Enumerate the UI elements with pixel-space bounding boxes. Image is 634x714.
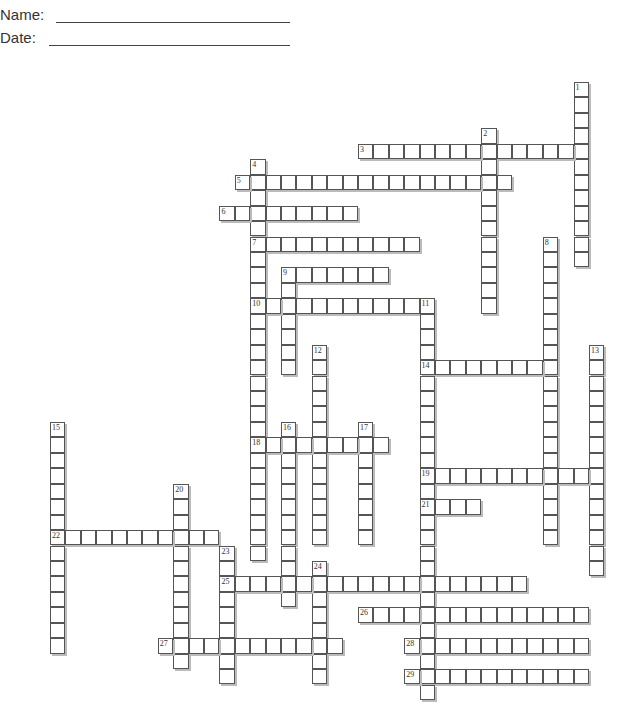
crossword-cell[interactable] — [574, 669, 589, 684]
crossword-cell[interactable] — [420, 422, 435, 437]
crossword-cell[interactable] — [435, 360, 450, 375]
crossword-cell[interactable] — [173, 623, 188, 638]
crossword-cell[interactable] — [50, 592, 65, 607]
crossword-cell[interactable] — [312, 267, 327, 282]
crossword-cell[interactable] — [296, 576, 311, 591]
crossword-cell[interactable] — [574, 252, 589, 267]
crossword-cell[interactable]: 9 — [281, 267, 296, 282]
crossword-cell[interactable] — [250, 206, 265, 221]
crossword-cell[interactable] — [420, 623, 435, 638]
crossword-cell[interactable] — [266, 237, 281, 252]
crossword-cell[interactable]: 27 — [158, 638, 173, 653]
crossword-cell[interactable] — [266, 175, 281, 190]
crossword-cell[interactable] — [574, 97, 589, 112]
crossword-cell[interactable] — [296, 437, 311, 452]
crossword-cell[interactable] — [589, 422, 604, 437]
crossword-cell[interactable] — [281, 515, 296, 530]
crossword-cell[interactable] — [250, 221, 265, 236]
crossword-cell[interactable] — [589, 391, 604, 406]
crossword-cell[interactable] — [358, 515, 373, 530]
crossword-cell[interactable] — [235, 638, 250, 653]
crossword-cell[interactable] — [481, 206, 496, 221]
crossword-cell[interactable] — [558, 638, 573, 653]
crossword-cell[interactable] — [404, 237, 419, 252]
crossword-cell[interactable] — [404, 298, 419, 313]
crossword-cell[interactable]: 13 — [589, 345, 604, 360]
crossword-cell[interactable] — [250, 376, 265, 391]
crossword-cell[interactable] — [389, 175, 404, 190]
crossword-cell[interactable] — [435, 669, 450, 684]
crossword-cell[interactable] — [543, 669, 558, 684]
crossword-cell[interactable] — [281, 206, 296, 221]
crossword-cell[interactable]: 10 — [250, 298, 265, 313]
crossword-cell[interactable] — [50, 468, 65, 483]
crossword-cell[interactable] — [281, 175, 296, 190]
crossword-cell[interactable]: 2 — [481, 128, 496, 143]
crossword-cell[interactable] — [420, 484, 435, 499]
crossword-cell[interactable] — [404, 175, 419, 190]
crossword-cell[interactable] — [250, 314, 265, 329]
crossword-cell[interactable] — [281, 638, 296, 653]
crossword-cell[interactable] — [589, 484, 604, 499]
crossword-cell[interactable] — [281, 298, 296, 313]
crossword-cell[interactable] — [527, 360, 542, 375]
crossword-cell[interactable] — [250, 638, 265, 653]
crossword-cell[interactable] — [281, 283, 296, 298]
crossword-cell[interactable] — [543, 144, 558, 159]
crossword-cell[interactable]: 7 — [250, 237, 265, 252]
crossword-cell[interactable] — [50, 561, 65, 576]
crossword-cell[interactable] — [312, 623, 327, 638]
crossword-cell[interactable] — [589, 376, 604, 391]
crossword-cell[interactable] — [50, 499, 65, 514]
crossword-cell[interactable] — [481, 468, 496, 483]
crossword-cell[interactable]: 26 — [358, 607, 373, 622]
crossword-cell[interactable] — [281, 329, 296, 344]
crossword-cell[interactable]: 21 — [420, 499, 435, 514]
crossword-cell[interactable] — [527, 144, 542, 159]
crossword-cell[interactable] — [50, 515, 65, 530]
crossword-cell[interactable] — [373, 237, 388, 252]
crossword-cell[interactable] — [204, 530, 219, 545]
crossword-cell[interactable]: 11 — [420, 298, 435, 313]
crossword-cell[interactable]: 23 — [219, 546, 234, 561]
crossword-cell[interactable] — [589, 453, 604, 468]
crossword-cell[interactable] — [312, 360, 327, 375]
crossword-cell[interactable]: 28 — [404, 638, 419, 653]
crossword-cell[interactable] — [481, 252, 496, 267]
crossword-cell[interactable] — [543, 607, 558, 622]
crossword-cell[interactable] — [235, 206, 250, 221]
crossword-cell[interactable] — [250, 530, 265, 545]
crossword-cell[interactable] — [450, 576, 465, 591]
crossword-cell[interactable] — [589, 437, 604, 452]
crossword-cell[interactable] — [281, 530, 296, 545]
crossword-cell[interactable] — [266, 576, 281, 591]
crossword-cell[interactable] — [450, 607, 465, 622]
crossword-cell[interactable] — [358, 298, 373, 313]
crossword-cell[interactable] — [250, 175, 265, 190]
crossword-cell[interactable] — [481, 360, 496, 375]
crossword-cell[interactable] — [281, 314, 296, 329]
crossword-cell[interactable] — [219, 669, 234, 684]
crossword-cell[interactable] — [281, 484, 296, 499]
crossword-cell[interactable] — [404, 144, 419, 159]
crossword-cell[interactable] — [312, 499, 327, 514]
crossword-cell[interactable] — [50, 607, 65, 622]
crossword-cell[interactable] — [327, 437, 342, 452]
crossword-cell[interactable] — [312, 422, 327, 437]
crossword-cell[interactable] — [373, 607, 388, 622]
crossword-cell[interactable] — [343, 206, 358, 221]
crossword-cell[interactable]: 15 — [50, 422, 65, 437]
crossword-cell[interactable] — [312, 638, 327, 653]
crossword-cell[interactable] — [327, 267, 342, 282]
crossword-cell[interactable] — [497, 669, 512, 684]
crossword-cell[interactable] — [358, 267, 373, 282]
crossword-cell[interactable] — [173, 499, 188, 514]
crossword-cell[interactable] — [435, 576, 450, 591]
crossword-cell[interactable] — [312, 468, 327, 483]
crossword-cell[interactable] — [512, 360, 527, 375]
crossword-cell[interactable] — [219, 561, 234, 576]
crossword-cell[interactable] — [250, 391, 265, 406]
crossword-cell[interactable] — [373, 144, 388, 159]
crossword-cell[interactable] — [420, 406, 435, 421]
crossword-cell[interactable] — [219, 654, 234, 669]
